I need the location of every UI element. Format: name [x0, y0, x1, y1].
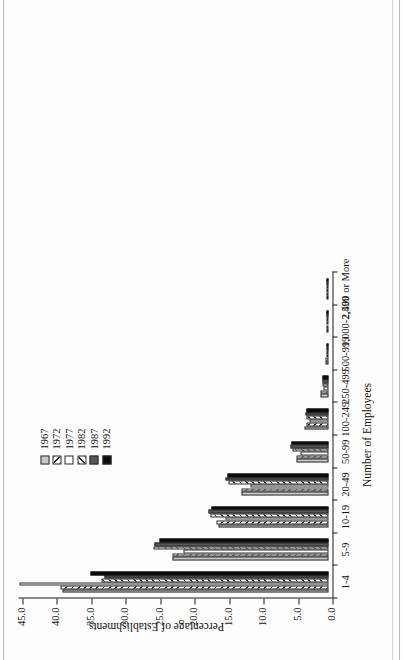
chart-stage: 0.05.010.015.020.025.030.035.040.045.0 1…	[0, 0, 403, 660]
legend-item: 1992	[100, 428, 112, 464]
bar	[323, 386, 329, 390]
category-axis-tick-label: 10-19	[340, 504, 351, 529]
legend-swatch-icon	[40, 455, 49, 464]
bar	[309, 419, 328, 423]
bar	[208, 509, 328, 513]
bar	[326, 288, 328, 292]
bar	[241, 488, 328, 492]
bar	[326, 321, 328, 325]
bar	[326, 317, 328, 321]
bar	[211, 506, 328, 510]
bar	[320, 390, 328, 394]
category-axis-tick	[332, 271, 337, 272]
bar	[326, 281, 328, 285]
legend: 196719721977198219871992	[38, 428, 112, 464]
bar	[306, 408, 328, 412]
bar	[320, 393, 328, 397]
bar	[250, 484, 328, 488]
bar	[172, 553, 328, 557]
legend-label: 1977	[64, 428, 75, 449]
legend-item: 1972	[50, 428, 62, 464]
bar	[290, 444, 328, 448]
legend-label: 1992	[101, 428, 112, 449]
bar	[326, 325, 328, 329]
value-axis-tick	[91, 598, 92, 604]
category-axis-tick	[332, 499, 337, 500]
legend-label: 1982	[76, 428, 87, 449]
legend-swatch-icon	[102, 455, 111, 464]
bar	[19, 582, 328, 586]
bar	[326, 295, 328, 299]
category-axis-tick	[332, 336, 337, 337]
category-axis-tick-label: 2,500 or More	[340, 258, 351, 318]
legend-swatch-icon	[89, 455, 98, 464]
category-axis-tick-label: 1-4	[340, 575, 351, 589]
bar	[322, 379, 328, 383]
bar	[325, 357, 328, 361]
value-axis-tick	[160, 598, 161, 604]
value-axis-tick	[56, 598, 57, 604]
legend-swatch-icon	[52, 455, 61, 464]
value-axis-tick	[229, 598, 230, 604]
bar	[306, 415, 328, 419]
legend-item: 1977	[63, 428, 75, 464]
bar	[241, 491, 328, 495]
bar	[322, 383, 328, 387]
bar	[326, 346, 328, 350]
category-axis-tick	[332, 304, 337, 305]
legend-swatch-icon	[64, 455, 73, 464]
bar	[292, 448, 329, 452]
bar	[326, 310, 328, 314]
figure-page: 0.05.010.015.020.025.030.035.040.045.0 1…	[0, 0, 403, 660]
bar	[227, 473, 328, 477]
value-axis-tick	[298, 598, 299, 604]
bar	[326, 343, 328, 347]
bar	[154, 542, 328, 546]
category-axis-tick-label: 5-9	[340, 542, 351, 556]
bar	[90, 571, 328, 575]
bar	[326, 328, 328, 332]
bar	[210, 513, 328, 517]
bar	[304, 426, 328, 430]
legend-item: 1987	[88, 428, 100, 464]
bar	[153, 546, 328, 550]
bar	[291, 441, 328, 445]
category-axis-tick	[332, 434, 337, 435]
legend-swatch-icon	[77, 455, 86, 464]
bar	[225, 517, 328, 521]
value-axis-tick	[125, 598, 126, 604]
category-axis-tick-label: 50-99	[340, 439, 351, 464]
value-axis-tick-label: 0.0	[327, 607, 338, 620]
bar	[62, 589, 328, 593]
bar	[159, 538, 328, 542]
category-axis-tick	[332, 467, 337, 468]
category-axis-tick	[332, 401, 337, 402]
legend-label: 1972	[51, 428, 62, 449]
value-axis-tick	[332, 598, 333, 604]
bar	[183, 549, 328, 553]
bar	[216, 520, 328, 524]
legend-label: 1967	[39, 428, 50, 449]
bar	[306, 422, 328, 426]
legend-label: 1987	[89, 428, 100, 449]
bar	[218, 524, 328, 528]
bar	[322, 375, 328, 379]
bar	[225, 477, 328, 481]
category-axis-tick-label: 100-249	[340, 401, 351, 436]
bar	[172, 556, 328, 560]
bar	[60, 585, 328, 589]
bar	[296, 455, 328, 459]
bar	[326, 354, 328, 358]
bar	[305, 412, 328, 416]
value-axis-tick	[22, 598, 23, 604]
bar	[104, 575, 328, 579]
category-axis-tick	[332, 564, 337, 565]
category-axis-tick	[332, 597, 337, 598]
legend-item: 1967	[38, 428, 50, 464]
bar	[326, 292, 328, 296]
bar	[101, 578, 328, 582]
category-axis-tick-label: 250-499	[340, 369, 351, 404]
y-axis-title: Percentage of Establishments	[26, 620, 286, 632]
bar	[326, 350, 328, 354]
category-axis-tick	[332, 532, 337, 533]
